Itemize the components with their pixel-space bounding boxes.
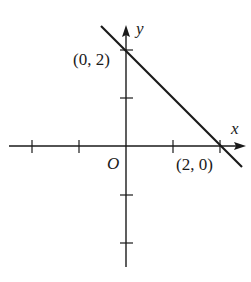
x-axis-label: x [231,120,239,137]
coordinate-graph: y x O (0, 2) (2, 0) [0,0,251,282]
point-label-y-intercept: (0, 2) [73,51,110,68]
point-label-x-intercept: (2, 0) [176,156,213,173]
origin-label: O [107,155,119,172]
graph-svg [0,0,251,282]
y-axis-label: y [136,20,144,37]
